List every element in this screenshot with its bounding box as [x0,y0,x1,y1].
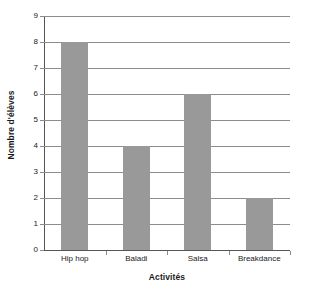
x-tick-label-breakdance: Breakdance [238,255,281,263]
x-tick-mark-1 [106,251,107,255]
x-axis-tick-labels: Hip hopBaladiSalsaBreakdance [44,255,290,269]
bar-baladi[interactable] [123,146,150,250]
x-tick-label-salsa: Salsa [188,255,208,263]
bar-chart-figure: Nombre d'élèves 0123456789 Hip hopBaladi… [0,0,310,303]
x-tick-mark-3 [229,251,230,255]
y-tick-label-3: 3 [6,168,38,176]
gridline-9 [44,16,290,17]
x-tick-mark-2 [167,251,168,255]
y-tick-label-9: 9 [6,12,38,20]
x-tick-mark-end [290,251,291,255]
plot-area [44,16,290,250]
x-tick-label-hip-hop: Hip hop [61,255,89,263]
y-tick-label-1: 1 [6,220,38,228]
x-tick-label-baladi: Baladi [125,255,147,263]
bar-hip-hop[interactable] [61,42,88,250]
y-tick-label-0: 0 [6,246,38,254]
y-tick-label-7: 7 [6,64,38,72]
y-tick-label-6: 6 [6,90,38,98]
y-tick-label-5: 5 [6,116,38,124]
bar-salsa[interactable] [184,94,211,250]
y-tick-label-8: 8 [6,38,38,46]
y-axis-tick-labels: 0123456789 [0,0,38,303]
y-tick-label-2: 2 [6,194,38,202]
y-tick-label-4: 4 [6,142,38,150]
x-axis-title: Activités [44,272,290,282]
bar-breakdance[interactable] [246,198,273,250]
